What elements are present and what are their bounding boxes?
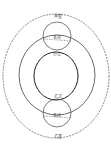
- orbit-diagram: 甲星 本点 小卫 乙卫 本点 乙星: [0, 0, 111, 148]
- label-bottom-outer: 乙星: [54, 133, 62, 139]
- middle-orbit: [19, 35, 95, 115]
- label-bottom-center: 本点: [53, 112, 61, 118]
- label-bottom-inner: 乙卫: [54, 93, 62, 99]
- inner-circle: [34, 52, 78, 100]
- center-dot: [78, 76, 79, 77]
- label-top-outer: 甲星: [54, 13, 62, 19]
- label-top-inner: 小卫: [53, 51, 61, 57]
- label-top-center: 本点: [53, 34, 61, 40]
